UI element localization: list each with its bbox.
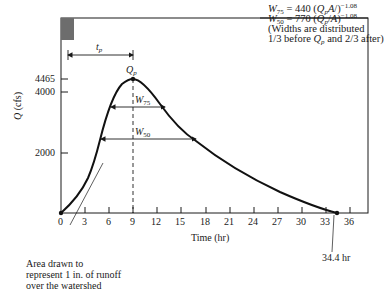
y-ticks: [61, 79, 68, 153]
area-note: Area drawn to represent 1 in. of runoff …: [26, 258, 121, 291]
y-tick-2000: 2000: [35, 147, 55, 158]
x-axis-label: Time (hr): [191, 232, 229, 243]
y-tick-4465: 4465: [35, 73, 55, 84]
end-time-label: 34.4 hr: [322, 252, 350, 263]
rainfall-excess-block: [61, 18, 74, 40]
tp-label: tp: [96, 41, 102, 52]
y-axis-label: Q (cfs): [12, 92, 23, 120]
qp-label: Qp: [126, 64, 137, 75]
hydrograph-curve: [61, 79, 337, 213]
equation-note-line2: 1/3 before Qp and 2/3 after): [268, 34, 384, 44]
end-leader-line: [332, 215, 334, 252]
peak-point: [131, 77, 135, 81]
w75-label: W75: [135, 94, 150, 105]
w50-label: W50: [135, 126, 150, 137]
equations-block: W75 = 440 (QpA/)−1.08 W50 = 770 (Qp/A)−1…: [268, 4, 384, 44]
end-point: [335, 211, 339, 215]
y-tick-4000: 4000: [35, 86, 55, 97]
x-ticks: [85, 207, 350, 213]
start-point: [59, 211, 63, 215]
